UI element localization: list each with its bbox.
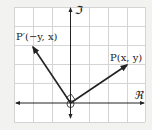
x-axis-label: ℜ — [134, 89, 144, 102]
point-p-prime-label: P′(−y, x) — [16, 31, 58, 42]
point-p-label: P(x, y) — [110, 52, 142, 63]
complex-plane-rotation-diagram: ℑ ℜ P(x, y) P′(−y, x) — [0, 0, 152, 130]
